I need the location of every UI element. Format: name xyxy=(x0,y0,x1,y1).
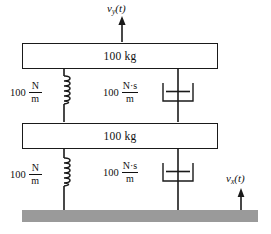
lower-damper-unit-denominator: m xyxy=(125,174,135,184)
mechanical-system-diagram: 100 kg 100 kg 100 N m 100 N m 100 N·s m xyxy=(0,0,271,234)
input-velocity-argument: (t) xyxy=(234,172,244,184)
lower-spring-unit-numerator: N xyxy=(31,163,40,173)
lower-spring-label: 100 N m xyxy=(10,163,42,186)
lower-damper-coefficient: 100 xyxy=(103,167,119,178)
upper-damper-unit-fraction: N·s m xyxy=(122,81,138,104)
lower-spring-unit-denominator: m xyxy=(30,176,40,186)
upper-mass-label: 100 kg xyxy=(104,50,137,62)
upper-spring-label: 100 N m xyxy=(10,81,42,104)
lower-damper-unit-numerator: N·s xyxy=(122,161,138,171)
lower-damper-label: 100 N·s m xyxy=(103,161,138,184)
input-velocity-label: vx(t) xyxy=(226,172,245,186)
upper-spring-coefficient: 100 xyxy=(10,87,26,98)
upper-mass-block: 100 kg xyxy=(22,43,218,69)
input-velocity-arrow xyxy=(238,188,245,211)
upper-spring-icon xyxy=(64,76,70,104)
upper-spring-unit-numerator: N xyxy=(31,81,40,91)
upper-damper-unit-denominator: m xyxy=(125,94,135,104)
output-velocity-arrow xyxy=(118,16,125,42)
upper-spring-unit-fraction: N m xyxy=(29,81,42,104)
output-velocity-argument: (t) xyxy=(115,2,125,14)
upper-damper-unit-numerator: N·s xyxy=(122,81,138,91)
lower-spring-unit-fraction: N m xyxy=(29,163,42,186)
upper-damper-label: 100 N·s m xyxy=(103,81,138,104)
lower-spring-icon xyxy=(64,158,70,186)
output-velocity-label: vy(t) xyxy=(107,2,126,16)
ground-surface xyxy=(22,210,258,222)
upper-spring-unit-denominator: m xyxy=(30,94,40,104)
lower-damper-unit-fraction: N·s m xyxy=(122,161,138,184)
lower-spring-coefficient: 100 xyxy=(10,169,26,180)
upper-damper-coefficient: 100 xyxy=(103,87,119,98)
diagram-vector-layer xyxy=(0,0,271,234)
lower-mass-label: 100 kg xyxy=(104,130,137,142)
lower-damper-icon xyxy=(163,163,193,181)
upper-damper-icon xyxy=(163,83,193,101)
lower-mass-block: 100 kg xyxy=(22,123,218,149)
